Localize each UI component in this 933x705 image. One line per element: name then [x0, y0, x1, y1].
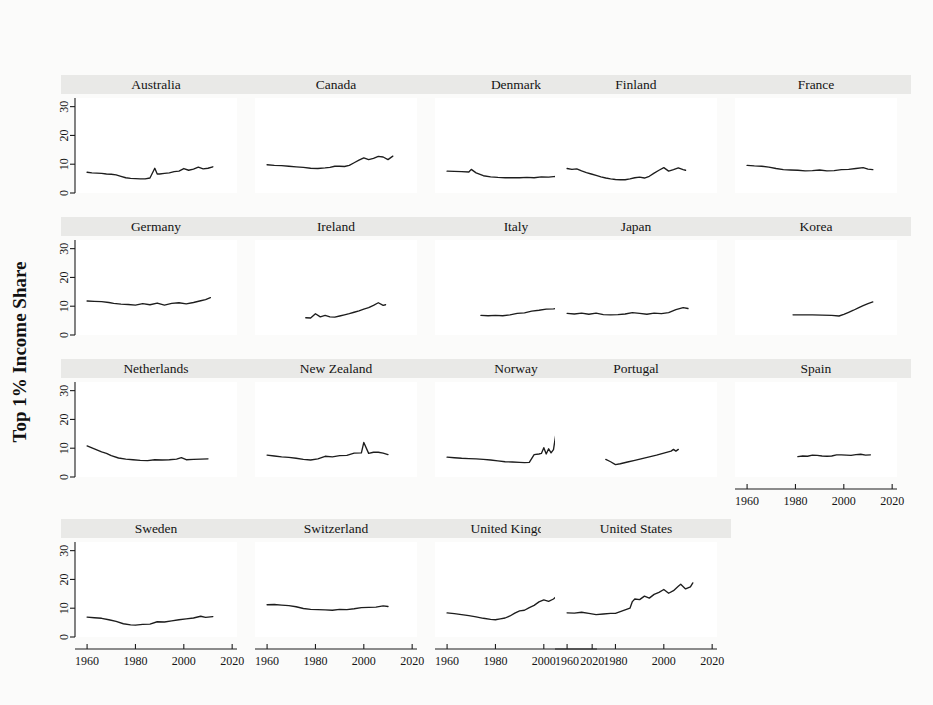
y-axis-label: Top 1% Income Share — [9, 261, 30, 442]
panel-spain: Spain1960198020002020 — [721, 359, 911, 508]
x-tick-label: 1960 — [255, 654, 279, 668]
panel-plot-area — [555, 240, 717, 335]
panel-plot-area — [255, 240, 417, 335]
panel-canada: Canada — [241, 75, 431, 193]
figure-canvas: Top 1% Income ShareAustralia0102030Canad… — [0, 0, 933, 705]
y-tick-label: 10 — [57, 300, 71, 312]
panel-title: United States — [600, 521, 672, 536]
y-tick-label: 20 — [57, 573, 71, 585]
panel-germany: Germany0102030 — [57, 217, 251, 338]
panel-plot-area — [75, 98, 237, 193]
y-tick-label: 30 — [57, 243, 71, 255]
panel-title: New Zealand — [300, 361, 373, 376]
panel-plot-area — [255, 98, 417, 193]
panel-plot-area — [735, 240, 897, 335]
panel-title: Germany — [131, 219, 181, 234]
panel-title: Spain — [801, 361, 832, 376]
panel-plot-area — [555, 382, 717, 477]
panel-title: Norway — [494, 361, 538, 376]
panel-ireland: Ireland — [241, 217, 431, 335]
panel-plot-area — [75, 240, 237, 335]
panel-title: Italy — [504, 219, 529, 234]
y-tick-label: 0 — [57, 474, 71, 480]
y-tick-label: 0 — [57, 332, 71, 338]
panel-korea: Korea — [721, 217, 911, 335]
x-tick-label: 1980 — [783, 494, 807, 508]
panel-netherlands: Netherlands0102030 — [57, 359, 251, 480]
x-tick-label: 2000 — [832, 494, 856, 508]
panel-title: Portugal — [613, 361, 659, 376]
panel-switzerland: Switzerland1960198020002020 — [241, 519, 431, 668]
panel-title: Ireland — [317, 219, 355, 234]
x-tick-label: 2020 — [700, 654, 724, 668]
y-tick-label: 20 — [57, 413, 71, 425]
x-tick-label: 1960 — [555, 654, 579, 668]
panel-plot-area — [255, 542, 417, 637]
y-tick-label: 10 — [57, 158, 71, 170]
x-tick-label: 2000 — [652, 654, 676, 668]
panel-new-zealand: New Zealand — [241, 359, 431, 477]
panel-plot-area — [555, 98, 717, 193]
x-tick-label: 2000 — [532, 654, 556, 668]
y-tick-label: 30 — [57, 545, 71, 557]
panel-title: Japan — [621, 219, 652, 234]
y-tick-label: 30 — [57, 101, 71, 113]
panel-plot-area — [75, 382, 237, 477]
panel-finland: Finland — [541, 75, 731, 193]
x-tick-label: 1980 — [123, 654, 147, 668]
x-tick-label: 1960 — [435, 654, 459, 668]
panel-title: Canada — [316, 77, 356, 92]
panel-sweden: Sweden01020301960198020002020 — [57, 519, 251, 668]
y-tick-label: 0 — [57, 634, 71, 640]
panel-france: France — [721, 75, 911, 193]
panel-title: Denmark — [491, 77, 541, 92]
x-tick-label: 2020 — [880, 494, 904, 508]
x-tick-label: 1960 — [735, 494, 759, 508]
x-tick-label: 1980 — [603, 654, 627, 668]
panel-title: Switzerland — [304, 521, 369, 536]
x-tick-label: 1960 — [75, 654, 99, 668]
panel-title: Finland — [615, 77, 657, 92]
y-tick-label: 30 — [57, 385, 71, 397]
y-tick-label: 20 — [57, 129, 71, 141]
panel-title: Korea — [800, 219, 833, 234]
panel-united-states: United States1960198020002020 — [541, 519, 731, 668]
x-tick-label: 2000 — [172, 654, 196, 668]
panel-title: Australia — [131, 77, 181, 92]
panel-australia: Australia0102030 — [57, 75, 251, 196]
panel-plot-area — [255, 382, 417, 477]
panel-plot-area — [735, 98, 897, 193]
panel-portugal: Portugal — [541, 359, 731, 477]
panel-plot-area — [555, 542, 717, 637]
x-tick-label: 2020 — [580, 654, 604, 668]
small-multiples-chart: Top 1% Income ShareAustralia0102030Canad… — [0, 0, 933, 705]
x-tick-label: 1980 — [303, 654, 327, 668]
panel-title: Sweden — [135, 521, 178, 536]
panel-title: Netherlands — [123, 361, 188, 376]
panel-plot-area — [735, 382, 897, 477]
x-tick-label: 1980 — [483, 654, 507, 668]
x-tick-label: 2020 — [220, 654, 244, 668]
y-tick-label: 0 — [57, 190, 71, 196]
x-tick-label: 2020 — [400, 654, 424, 668]
y-tick-label: 10 — [57, 602, 71, 614]
x-tick-label: 2000 — [352, 654, 376, 668]
y-tick-label: 20 — [57, 271, 71, 283]
y-tick-label: 10 — [57, 442, 71, 454]
panel-title: France — [798, 77, 835, 92]
panel-japan: Japan — [541, 217, 731, 335]
